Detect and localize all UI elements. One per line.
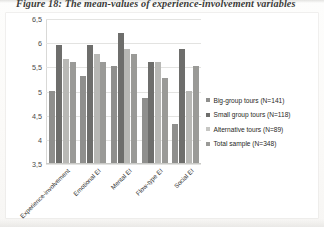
bar: [142, 98, 148, 163]
bar: [94, 54, 100, 163]
bar-group: [78, 19, 109, 163]
bar: [172, 124, 178, 163]
legend-label: Big-group tours (N=141): [214, 97, 285, 104]
chart-legend: Big-group tours (N=141)Small group tours…: [206, 93, 318, 151]
bar-group: [170, 19, 201, 163]
legend-swatch-icon: [206, 98, 210, 102]
bar: [186, 91, 192, 164]
legend-item: Total sample (N=348): [206, 137, 318, 152]
legend-label: Alternative tours (N=89): [214, 126, 284, 133]
bar: [111, 66, 117, 163]
bar: [70, 62, 76, 164]
bar: [87, 45, 93, 163]
y-tick-label: 4,5: [32, 111, 42, 120]
y-tick-label: 5,5: [32, 63, 42, 72]
bar-groups: [47, 19, 201, 163]
bar-group: [139, 19, 170, 163]
x-tick-label: Flow-type EI: [134, 167, 164, 197]
legend-label: Total sample (N=348): [214, 140, 277, 147]
bar: [100, 62, 106, 164]
x-tick-label: Mental EI: [109, 167, 133, 191]
bar: [124, 49, 130, 163]
y-tick-label: 6,5: [32, 15, 42, 24]
bar: [131, 54, 137, 163]
chart-container: 6,565,554,543,5 Experience-involvementEm…: [6, 13, 318, 218]
bar: [80, 76, 86, 163]
bar: [56, 45, 62, 163]
bar-group: [47, 19, 78, 163]
bar: [162, 78, 168, 163]
figure-caption: Figure 18: The mean-values of experience…: [16, 0, 316, 9]
y-tick-label: 5: [38, 87, 42, 96]
legend-label: Small group tours (N=118): [214, 111, 291, 118]
bar-group: [109, 19, 140, 163]
bar: [63, 59, 69, 163]
legend-item: Small group tours (N=118): [206, 108, 318, 123]
x-axis-labels: Experience-involvementEmotional EIMental…: [46, 165, 201, 217]
bar: [148, 62, 154, 164]
y-tick-label: 3,5: [32, 160, 42, 169]
bar: [155, 62, 161, 164]
legend-swatch-icon: [206, 113, 210, 117]
legend-item: Alternative tours (N=89): [206, 122, 318, 137]
x-tick-label: Experience-involvement: [18, 167, 70, 219]
x-tick-label: Emotional EI: [71, 167, 101, 197]
bar: [118, 33, 124, 164]
y-tick-label: 4: [38, 135, 42, 144]
x-tick-label: Social EI: [172, 167, 195, 190]
bar: [49, 91, 55, 164]
legend-swatch-icon: [206, 127, 210, 131]
bar: [179, 49, 185, 163]
y-tick-label: 6: [38, 39, 42, 48]
legend-item: Big-group tours (N=141): [206, 93, 318, 108]
plot-area: 6,565,554,543,5: [46, 19, 201, 164]
bar: [193, 66, 199, 163]
legend-swatch-icon: [206, 142, 210, 146]
